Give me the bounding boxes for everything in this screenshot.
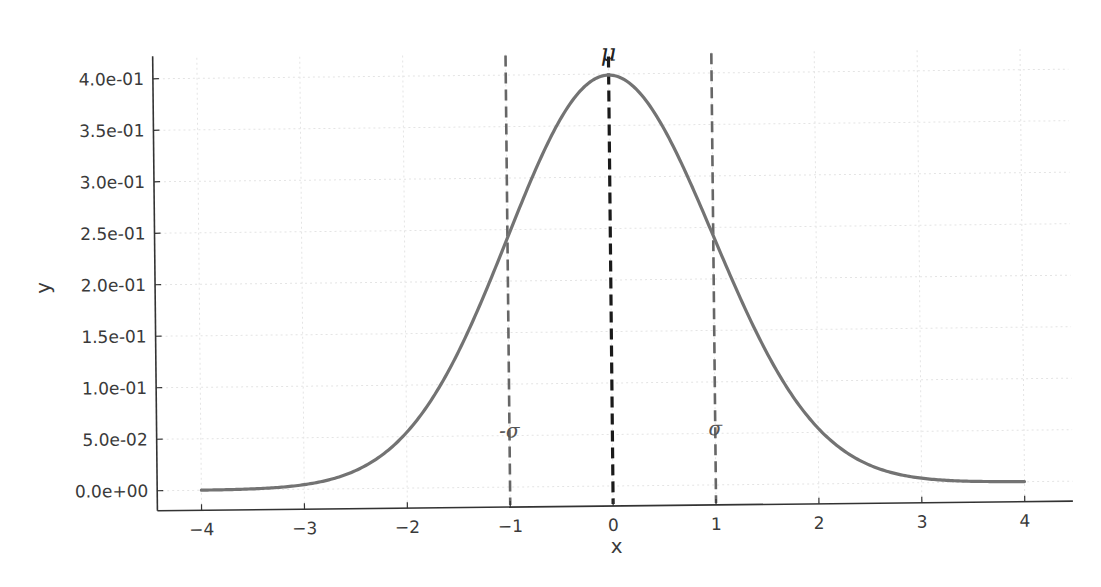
grid-line-horizontal [157, 430, 1072, 440]
grid-line-horizontal [156, 378, 1071, 388]
x-tick-label: −4 [189, 519, 214, 539]
x-tick-label: 3 [917, 512, 928, 532]
x-axis-label: x [611, 534, 623, 558]
grid-line-horizontal [155, 224, 1070, 234]
y-tick-label: 0.0e+00 [75, 481, 149, 502]
y-tick-label: 4.0e-01 [79, 69, 144, 90]
y-axis-label: y [31, 282, 55, 294]
y-axis-spine [153, 56, 158, 511]
x-tick-label: 1 [711, 514, 722, 534]
mu-label: μ [600, 38, 616, 66]
x-tick-label: 0 [608, 515, 619, 535]
reference-lines [506, 53, 716, 505]
x-tick-label: −3 [292, 518, 317, 538]
x-tick-label: 4 [1019, 511, 1030, 531]
grid-lines [153, 49, 1073, 511]
y-tick-label: 3.5e-01 [79, 120, 144, 141]
y-tick-label: 2.0e-01 [81, 275, 146, 296]
x-tick-label: 2 [814, 513, 825, 533]
grid-line-horizontal [155, 275, 1070, 285]
y-tick-label: 1.5e-01 [81, 326, 146, 347]
y-axis-ticks: 0.0e+005.0e-021.0e-011.5e-012.0e-012.5e-… [70, 69, 163, 502]
normal-distribution-chart: −4−3−2−101234 0.0e+005.0e-021.0e-011.5e-… [0, 0, 1101, 587]
grid-line-horizontal [153, 121, 1068, 131]
y-tick-label: 5.0e-02 [82, 429, 147, 450]
x-tick-label: −2 [395, 517, 420, 537]
sigma-label: σ [708, 416, 723, 440]
x-axis-spine [157, 501, 1072, 511]
y-tick-label: 1.0e-01 [82, 378, 147, 399]
y-tick-label: 3.0e-01 [80, 172, 145, 193]
y-tick-label: 2.5e-01 [80, 223, 145, 244]
grid-line-horizontal [156, 327, 1071, 337]
x-tick-label: −1 [498, 516, 523, 536]
minus-sigma-label: -σ [499, 418, 521, 442]
grid-line-horizontal [154, 172, 1069, 182]
